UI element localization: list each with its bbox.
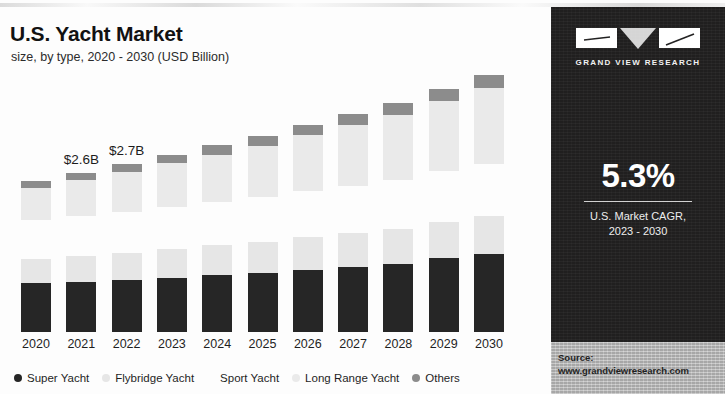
bar-segment[interactable] [157,249,187,278]
bar-segment[interactable] [383,115,413,180]
bar-segment[interactable] [338,186,368,233]
bar-segment[interactable] [383,103,413,115]
stacked-bar[interactable] [202,145,232,332]
stacked-bar[interactable] [293,125,323,332]
cagr-value: 5.3% [551,159,725,192]
legend-color-swatch [14,374,22,382]
stacked-bar[interactable] [157,155,187,332]
bar-segment[interactable] [66,173,96,180]
bar-segment[interactable] [429,258,459,332]
gvr-logo-icon [576,25,700,53]
bar-segment[interactable] [21,220,51,259]
stacked-bar-plot: 20202021$2.6B2022$2.7B202320242025202620… [0,0,551,394]
bar-segment[interactable] [429,222,459,258]
x-axis-label: 2025 [249,337,277,351]
stacked-bar[interactable] [248,136,278,332]
bar-segment[interactable] [21,181,51,188]
bar-segment[interactable] [202,145,232,154]
legend-label: Long Range Yacht [305,372,399,384]
bar-segment[interactable] [202,275,232,332]
side-panel: GRAND VIEW RESEARCH 5.3% U.S. Market CAG… [551,7,725,394]
bar-segment[interactable] [66,180,96,216]
chart-panel: U.S. Yacht Market size, by type, 2020 - … [0,0,551,394]
bar-segment[interactable] [21,188,51,220]
bar-segment[interactable] [248,136,278,146]
legend-item[interactable]: Long Range Yacht [292,372,399,384]
legend-item[interactable]: Others [412,372,460,384]
bar-segment[interactable] [248,273,278,332]
bar-segment[interactable] [157,207,187,249]
bar-segment[interactable] [66,256,96,282]
bar-segment[interactable] [293,237,323,269]
bar-segment[interactable] [112,212,142,253]
legend-color-swatch [412,374,420,382]
x-axis-label: 2028 [384,337,412,351]
bar-segment[interactable] [474,254,504,332]
bar-segment[interactable] [293,270,323,332]
legend-label: Others [425,372,460,384]
bar-value-label: $2.6B [64,152,99,167]
legend-label: Super Yacht [27,372,89,384]
x-axis-label: 2023 [158,337,186,351]
legend-color-swatch [207,374,215,382]
source-url[interactable]: www.grandviewresearch.com [558,365,689,376]
bar-segment[interactable] [248,242,278,273]
bar-segment[interactable] [157,278,187,332]
bar-segment[interactable] [474,75,504,88]
x-axis-label: 2024 [203,337,231,351]
bar-segment[interactable] [202,245,232,275]
bar-segment[interactable] [248,146,278,197]
bar-segment[interactable] [157,155,187,164]
brand-wordmark: GRAND VIEW RESEARCH [551,58,725,67]
bar-segment[interactable] [429,171,459,221]
stacked-bar[interactable] [338,114,368,332]
x-axis-label: 2021 [67,337,95,351]
bar-segment[interactable] [248,197,278,242]
bar-segment[interactable] [202,202,232,246]
bar-segment[interactable] [66,216,96,256]
bar-segment[interactable] [21,259,51,284]
stacked-bar[interactable] [474,75,504,332]
bar-segment[interactable] [21,283,51,332]
legend-item[interactable]: Flybridge Yacht [102,372,194,384]
bar-segment[interactable] [383,229,413,264]
bar-value-label: $2.7B [109,143,144,158]
bar-segment[interactable] [383,264,413,332]
bar-segment[interactable] [293,135,323,191]
bar-segment[interactable] [293,125,323,136]
stacked-bar[interactable] [429,89,459,332]
bar-segment[interactable] [157,163,187,207]
legend-color-swatch [292,374,300,382]
legend-item[interactable]: Sport Yacht [207,372,279,384]
cagr-caption-line2: 2023 - 2030 [551,224,725,239]
chart-screenshot: U.S. Yacht Market size, by type, 2020 - … [0,0,725,394]
brand-logo: GRAND VIEW RESEARCH [551,25,725,67]
stacked-bar[interactable] [21,181,51,332]
bar-segment[interactable] [66,282,96,332]
stacked-bar[interactable] [383,103,413,332]
stacked-bar[interactable] [112,164,142,332]
legend-item[interactable]: Super Yacht [14,372,89,384]
bar-segment[interactable] [429,89,459,101]
bar-segment[interactable] [338,267,368,332]
bar-segment[interactable] [474,216,504,253]
cagr-block: 5.3% U.S. Market CAGR, 2023 - 2030 [551,159,725,239]
bar-segment[interactable] [429,101,459,171]
bar-segment[interactable] [474,164,504,216]
x-axis-label: 2020 [22,337,50,351]
legend-label: Flybridge Yacht [115,372,194,384]
bar-segment[interactable] [338,233,368,267]
bar-segment[interactable] [112,280,142,332]
bar-segment[interactable] [338,125,368,185]
bar-segment[interactable] [112,172,142,212]
bar-segment[interactable] [112,164,142,172]
bar-segment[interactable] [112,253,142,280]
bar-segment[interactable] [293,191,323,237]
bar-segment[interactable] [202,155,232,202]
bar-segment[interactable] [474,88,504,164]
divider [584,201,692,202]
stacked-bar[interactable] [66,173,96,332]
bar-segment[interactable] [383,180,413,229]
bar-segment[interactable] [338,114,368,125]
x-axis-label: 2029 [430,337,458,351]
